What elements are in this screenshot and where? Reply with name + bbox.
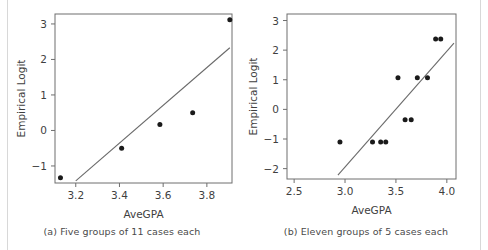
x-tick-label: 3.5 xyxy=(388,185,405,197)
y-tick-label: 1 xyxy=(40,89,47,101)
x-tick-label: 3.8 xyxy=(199,189,216,201)
scatter-plot-a: 3.23.43.63.8−10123AveGPAEmpirical Logit xyxy=(0,0,244,250)
data-point xyxy=(119,146,124,151)
data-point xyxy=(409,117,414,122)
y-tick-label: 3 xyxy=(272,15,279,27)
figure-container: 3.23.43.63.8−10123AveGPAEmpirical Logit … xyxy=(0,0,488,250)
x-tick-label: 2.5 xyxy=(286,185,303,197)
y-tick-label: 0 xyxy=(272,103,279,115)
y-tick-label: −1 xyxy=(264,133,279,145)
y-tick-label: 1 xyxy=(272,74,279,86)
y-tick-label: 0 xyxy=(40,124,47,136)
x-tick-label: 3.6 xyxy=(155,189,172,201)
scatter-plot-b: 2.53.03.54.0−2−10123AveGPAEmpirical Logi… xyxy=(244,0,488,250)
y-tick-label: −2 xyxy=(264,163,279,175)
regression-line xyxy=(76,48,230,181)
y-tick-label: −1 xyxy=(32,160,47,172)
x-tick-label: 4.0 xyxy=(438,185,455,197)
data-point xyxy=(438,36,443,41)
y-axis-title: Empirical Logit xyxy=(15,60,27,138)
data-point xyxy=(337,139,342,144)
data-point xyxy=(378,139,383,144)
data-point xyxy=(383,139,388,144)
data-point xyxy=(433,36,438,41)
panel-b-caption: (b) Eleven groups of 5 cases each xyxy=(244,226,488,237)
data-point xyxy=(370,139,375,144)
x-tick-label: 3.2 xyxy=(67,189,84,201)
data-point xyxy=(395,75,400,80)
panel-b: 2.53.03.54.0−2−10123AveGPAEmpirical Logi… xyxy=(244,0,488,250)
data-point xyxy=(425,75,430,80)
x-tick-label: 3.4 xyxy=(111,189,128,201)
panel-a-caption: (a) Five groups of 11 cases each xyxy=(0,226,244,237)
x-axis-title: AveGPA xyxy=(123,208,164,220)
y-tick-label: 3 xyxy=(40,18,47,30)
y-axis-title: Empirical Logit xyxy=(247,58,259,136)
plot-frame xyxy=(55,14,232,183)
data-point xyxy=(415,75,420,80)
regression-line xyxy=(338,43,454,175)
data-point xyxy=(403,117,408,122)
data-point xyxy=(157,122,162,127)
x-tick-label: 3.0 xyxy=(337,185,354,197)
data-point xyxy=(190,110,195,115)
plot-frame xyxy=(287,14,456,179)
y-tick-label: 2 xyxy=(272,44,279,56)
data-point xyxy=(227,17,232,22)
panel-a: 3.23.43.63.8−10123AveGPAEmpirical Logit … xyxy=(0,0,244,250)
data-point xyxy=(58,175,63,180)
y-tick-label: 2 xyxy=(40,53,47,65)
x-axis-title: AveGPA xyxy=(351,204,392,216)
